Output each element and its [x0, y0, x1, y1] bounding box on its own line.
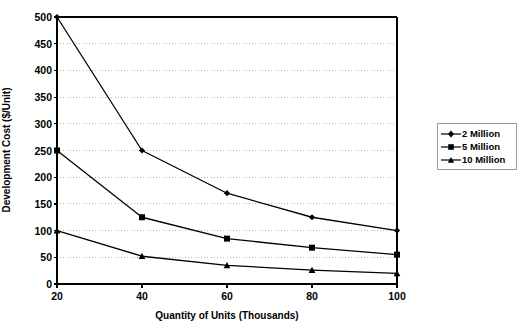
diamond-data-point: [309, 214, 315, 220]
legend: 2 Million 5 Million 10 Million: [437, 123, 517, 170]
square-data-point: [54, 148, 60, 154]
data-series-group: [54, 14, 401, 276]
legend-item[interactable]: 2 Million: [440, 127, 514, 140]
diamond-data-point: [394, 228, 400, 234]
axis-ticks: [54, 17, 398, 288]
data-series: [54, 227, 401, 276]
data-series: [54, 148, 400, 258]
square-marker-icon: [440, 141, 462, 153]
legend-item-label: 10 Million: [462, 154, 505, 166]
diamond-data-point: [139, 147, 145, 153]
square-data-point: [224, 236, 230, 242]
gridlines: [57, 44, 397, 258]
diamond-data-point: [224, 190, 230, 196]
diamond-marker-icon: [440, 128, 462, 140]
square-data-point: [139, 214, 145, 220]
square-data-point: [394, 252, 400, 258]
legend-item-label: 5 Million: [462, 141, 500, 153]
legend-item[interactable]: 10 Million: [440, 153, 514, 166]
legend-item-label: 2 Million: [462, 128, 500, 140]
triangle-marker-icon: [440, 154, 462, 166]
diamond-data-point: [54, 14, 60, 20]
square-data-point: [309, 245, 315, 251]
line-chart: Development Cost ($/Unit) 0 50 100 150 2…: [0, 0, 524, 332]
legend-item[interactable]: 5 Million: [440, 140, 514, 153]
